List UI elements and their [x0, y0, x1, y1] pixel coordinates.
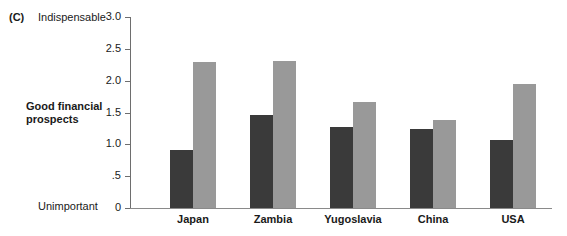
bar-usa-light — [513, 84, 536, 208]
figure-panel-c: (C) Indispensable Unimportant Good finan… — [0, 0, 567, 236]
y-axis-high-anchor-label: Indispensable — [38, 11, 106, 23]
bar-japan-dark — [170, 150, 193, 208]
x-axis-label-usa: USA — [458, 213, 567, 225]
y-axis-low-anchor-label: Unimportant — [38, 200, 98, 212]
y-axis-tick: 3.0 — [125, 17, 130, 18]
bar-group — [170, 22, 216, 208]
bar-group — [250, 22, 296, 208]
y-axis-tick-label: 2.0 — [106, 74, 121, 86]
bar-yugoslavia-dark — [330, 127, 353, 208]
y-axis-tick-label: .5 — [112, 169, 121, 181]
y-axis-tick-label: 1.5 — [106, 106, 121, 118]
bar-group — [490, 22, 536, 208]
y-axis-tick: 2.0 — [125, 81, 130, 82]
y-axis-tick-label: 2.5 — [106, 42, 121, 54]
bar-yugoslavia-light — [353, 102, 376, 208]
bar-group — [330, 22, 376, 208]
bar-usa-dark — [490, 140, 513, 208]
plot-area: 0.51.01.52.02.53.0 JapanZambiaYugoslavia… — [130, 10, 560, 220]
bar-zambia-light — [273, 61, 296, 208]
bar-china-dark — [410, 129, 433, 208]
y-axis-tick-label: 1.0 — [106, 137, 121, 149]
y-axis-tick: 1.5 — [125, 113, 130, 114]
y-axis-line — [130, 17, 131, 209]
y-axis-tick: .5 — [125, 176, 130, 177]
y-axis-tick: 0 — [125, 208, 130, 209]
bar-japan-light — [193, 62, 216, 208]
panel-letter: (C) — [9, 11, 24, 23]
bar-group — [410, 22, 456, 208]
bar-china-light — [433, 120, 456, 208]
bar-zambia-dark — [250, 115, 273, 208]
x-axis-line — [130, 208, 552, 209]
y-axis-tick: 2.5 — [125, 49, 130, 50]
y-axis-tick-label: 0 — [115, 201, 121, 213]
y-axis-tick-label: 3.0 — [106, 10, 121, 22]
y-axis-tick: 1.0 — [125, 144, 130, 145]
